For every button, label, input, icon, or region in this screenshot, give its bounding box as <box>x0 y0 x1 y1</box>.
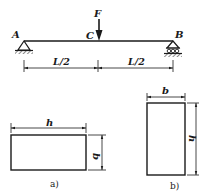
point-label-b: B <box>174 29 183 40</box>
section-a <box>11 123 106 170</box>
section-a-height-label: b <box>91 153 102 160</box>
span-label-left: L/2 <box>52 56 70 67</box>
load-label: F <box>93 8 102 19</box>
section-a-width-label: h <box>46 117 53 128</box>
section-b-height-label: h <box>187 135 198 142</box>
section-a-caption: a) <box>50 179 59 189</box>
section-b-width-label: b <box>162 85 169 96</box>
point-label-c: C <box>86 30 94 41</box>
span-label-right: L/2 <box>127 56 145 67</box>
section-b-caption: b) <box>170 181 179 191</box>
section-b <box>147 93 199 175</box>
beam-diagram: F C A B L/2 L/2 h b a) b h b) <box>0 0 202 195</box>
span-dimension <box>24 60 173 72</box>
pin-support-icon <box>15 41 33 54</box>
load-arrow-icon <box>96 19 103 41</box>
roller-support-icon <box>164 41 182 57</box>
point-label-a: A <box>11 29 20 40</box>
